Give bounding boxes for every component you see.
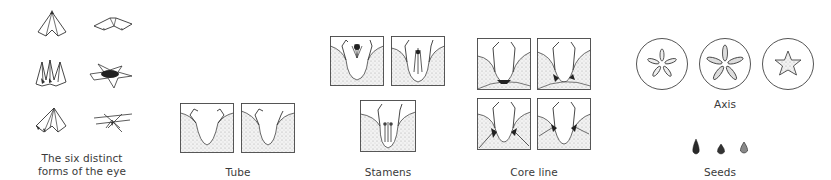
eye-forms-caption-line1: The six distinct	[20, 152, 144, 165]
seeds-caption: Seeds	[690, 166, 750, 179]
axis-cross-section-1-icon	[635, 37, 689, 91]
tube-section-2-icon	[241, 103, 295, 153]
stamens-section-2-icon	[391, 36, 445, 86]
eye-form-1-icon	[32, 10, 72, 38]
core-line-caption: Core line	[496, 166, 572, 179]
eye-form-4-icon	[88, 62, 134, 90]
seed-2-icon	[716, 143, 726, 156]
core-line-section-2-icon	[537, 38, 591, 90]
seed-3-icon	[739, 141, 749, 155]
eye-forms-caption-line2: forms of the eye	[20, 165, 144, 178]
eye-form-3-icon	[32, 58, 72, 88]
axis-cross-section-2-icon	[698, 37, 752, 91]
stamens-section-3-icon	[360, 100, 416, 152]
axis-caption: Axis	[695, 98, 755, 111]
eye-forms-caption: The six distinct forms of the eye	[20, 152, 144, 178]
tube-section-1-icon	[180, 103, 234, 153]
seed-1-icon	[691, 138, 701, 156]
eye-form-5-icon	[32, 106, 72, 134]
eye-form-2-icon	[92, 14, 134, 34]
core-line-section-3-icon	[477, 98, 531, 150]
stamens-caption: Stamens	[350, 166, 426, 179]
core-line-section-4-icon	[537, 98, 591, 150]
eye-form-6-icon	[92, 110, 134, 134]
core-line-section-1-icon	[477, 38, 531, 90]
stamens-section-1-icon	[330, 36, 384, 86]
tube-caption: Tube	[208, 166, 268, 179]
axis-cross-section-3-icon	[761, 37, 815, 91]
